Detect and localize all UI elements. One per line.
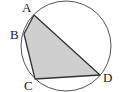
diagram-canvas: A B C D (0, 0, 124, 92)
vertex-label-d: D (103, 70, 112, 85)
quadrilateral-abcd (24, 15, 100, 79)
vertex-label-b: B (10, 27, 19, 42)
vertex-label-a: A (22, 0, 32, 15)
vertex-label-c: C (24, 78, 33, 92)
